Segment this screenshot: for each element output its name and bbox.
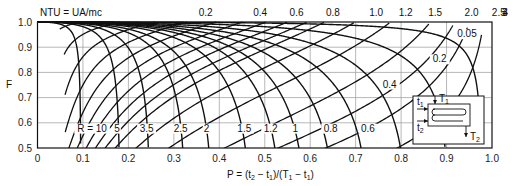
ntu-label: 1.5 — [428, 7, 442, 18]
ntu-label: 1.0 — [369, 7, 383, 18]
r-curve-label: 0.8 — [324, 123, 338, 134]
r-curve-label: 5 — [114, 123, 120, 134]
x-tick-label: 0.2 — [121, 153, 135, 164]
ntu-label: 4 — [502, 7, 508, 18]
r-curve-label: 1 — [292, 123, 298, 134]
x-tick-label: 0.4 — [212, 153, 226, 164]
y-tick-label: 0.9 — [18, 42, 32, 53]
exchanger-inset-diagram: t1 t2 T1 T2 — [413, 93, 484, 144]
x-tick-label: 0.9 — [440, 153, 454, 164]
r-curve-label: 3.5 — [140, 123, 154, 134]
r-curve-label: 1.5 — [237, 123, 251, 134]
ntu-label: 1.2 — [399, 7, 413, 18]
r-curve-label: 2.5 — [174, 123, 188, 134]
x-tick-label: 0.8 — [394, 153, 408, 164]
ntu-label: 0.6 — [290, 7, 304, 18]
ntu-label: 0.2 — [199, 7, 213, 18]
f-correction-factor-chart: 00.10.20.30.40.50.60.70.80.91.00.50.60.7… — [0, 0, 513, 186]
inset-T1-label: T1 — [439, 93, 449, 105]
y-tick-label: 0.6 — [18, 117, 32, 128]
x-axis-label: P = (t2 − t1)/(T1 − t1) — [227, 169, 314, 181]
x-tick-label: 0.7 — [349, 153, 363, 164]
x-tick-label: 0.5 — [258, 153, 272, 164]
ntu-label: 0.8 — [326, 7, 340, 18]
ntu-label: 2.0 — [465, 7, 479, 18]
r-curve-label: 1.2 — [264, 123, 278, 134]
ntu-label: 0.4 — [253, 7, 267, 18]
ntu-inner-label: 0.2 — [433, 53, 447, 64]
x-tick-label: 0 — [35, 153, 41, 164]
x-tick-label: 0.6 — [303, 153, 317, 164]
r-curve-label: R = 10 — [77, 123, 107, 134]
y-tick-label: 1.0 — [18, 17, 32, 28]
x-tick-label: 1.0 — [485, 153, 499, 164]
r-curve-label: 2 — [204, 123, 210, 134]
ntu-inner-label: 0.4 — [383, 79, 397, 90]
y-tick-label: 0.7 — [18, 92, 32, 103]
y-tick-label: 0.8 — [18, 67, 32, 78]
y-tick-label: 0.5 — [18, 143, 32, 154]
ntu-family-label: NTU = UA/mc — [40, 7, 102, 18]
x-tick-label: 0.3 — [167, 153, 181, 164]
x-tick-label: 0.1 — [76, 153, 90, 164]
y-axis-label: F — [6, 79, 12, 90]
ntu-curve — [65, 22, 187, 132]
r-curve-label: 0.6 — [361, 123, 375, 134]
ntu-inner-label: 0.05 — [457, 28, 477, 39]
